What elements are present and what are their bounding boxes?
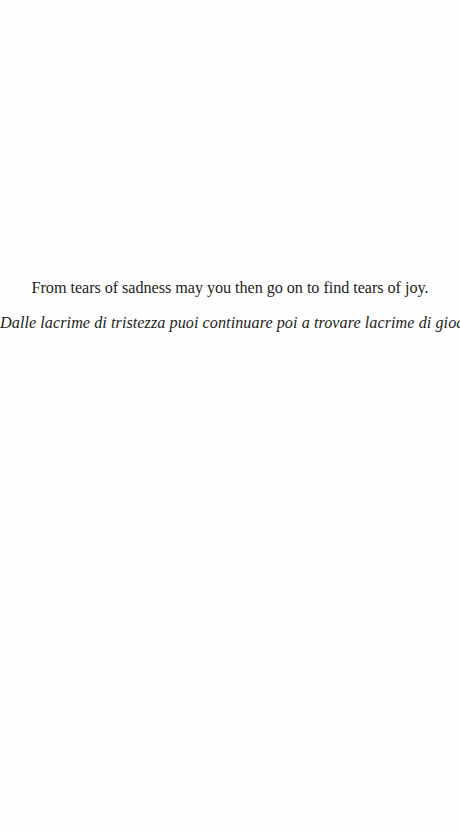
quote-english: From tears of sadness may you then go on… — [0, 279, 460, 298]
book-page: From tears of sadness may you then go on… — [0, 0, 460, 831]
quote-italian-translation: Dalle lacrime di tristezza puoi continua… — [0, 314, 460, 333]
